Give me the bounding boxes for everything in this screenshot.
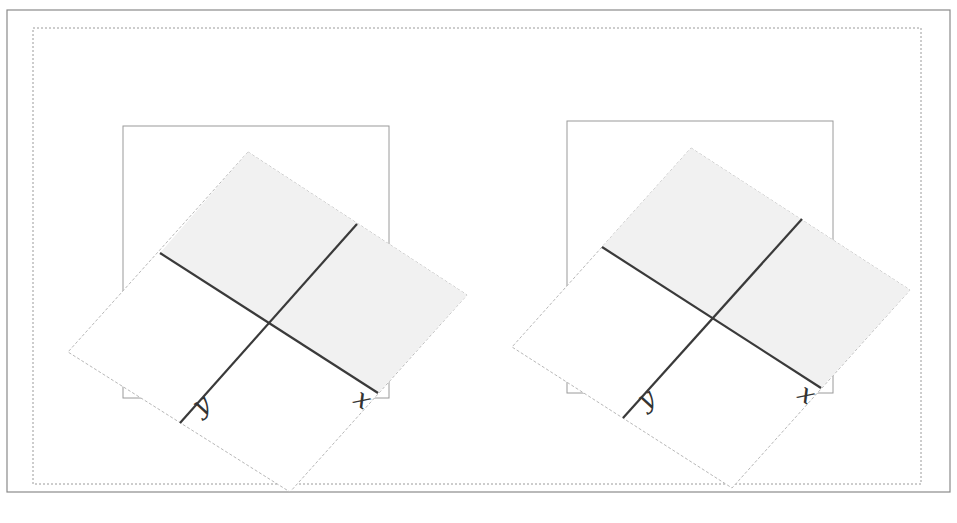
panel-right: x y	[512, 121, 910, 488]
diagram-canvas: x y x y	[0, 0, 957, 523]
panel-left: x y	[68, 126, 467, 492]
